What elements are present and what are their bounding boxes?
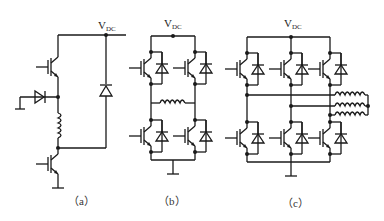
igbt-module-icon: [308, 120, 347, 156]
diode-icon: [15, 91, 58, 109]
panel-c: VDC （c）: [225, 17, 370, 209]
circuit-diagram: VDC （a） VDC （b）: [0, 0, 384, 221]
igbt-module-icon: [269, 51, 308, 87]
panel-a: VDC （a）: [15, 19, 126, 207]
igbt-module-icon: [129, 118, 168, 154]
igbt-module-icon: [173, 118, 212, 154]
caption-b: （b）: [158, 195, 186, 207]
caption-a: （a）: [68, 195, 95, 207]
igbt-module-icon: [225, 51, 264, 87]
igbt-module-icon: [269, 120, 308, 156]
igbt-module-icon: [173, 50, 212, 86]
vdc-label-c: VDC: [284, 17, 302, 31]
inductor-icon: [160, 100, 185, 103]
diode-vdc-icon: [100, 85, 112, 96]
caption-c: （c）: [282, 197, 309, 209]
igbt-module-icon: [129, 50, 168, 86]
inductor-icon: [58, 113, 61, 138]
igbt-module-icon: [308, 51, 347, 87]
igbt-upper-icon: [36, 53, 58, 81]
inductor-group-icon: [335, 92, 370, 115]
igbt-lower-icon: [36, 150, 58, 178]
panel-b: VDC （b）: [129, 17, 212, 207]
vdc-label-b: VDC: [164, 17, 182, 31]
vdc-label-a: VDC: [98, 19, 116, 33]
igbt-module-icon: [225, 120, 264, 156]
